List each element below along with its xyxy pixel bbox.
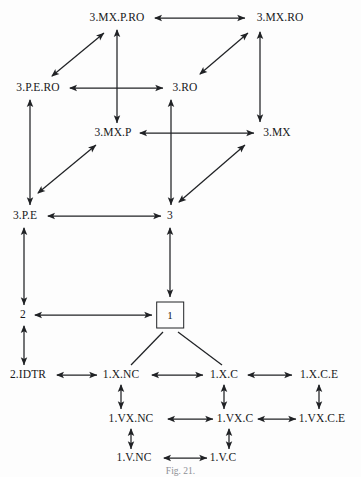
edge-mx-to-mx-ro bbox=[200, 33, 248, 74]
node-v-nc: 1.V.NC bbox=[117, 452, 152, 464]
node-vx-c: 1.VX.C bbox=[217, 413, 253, 425]
node-p-e: 3.P.E bbox=[13, 210, 37, 222]
node-v-c: 1.V.C bbox=[210, 452, 237, 464]
node-mx: 3.MX bbox=[263, 127, 291, 139]
node-idtr: 2.IDTR bbox=[10, 369, 46, 381]
node-one: 1 bbox=[156, 302, 184, 329]
node-two: 2 bbox=[20, 309, 26, 321]
edge-three-to-mx bbox=[179, 145, 245, 202]
node-three: 3 bbox=[167, 210, 173, 222]
node-p-e-ro: 3.P.E.RO bbox=[16, 82, 59, 94]
node-x-c: 1.X.C bbox=[210, 369, 238, 381]
edge-layer bbox=[0, 0, 361, 477]
edge-one-to-x-nc bbox=[131, 332, 163, 365]
edge-p-e-to-mx-p bbox=[38, 145, 96, 193]
node-ro: 3.RO bbox=[172, 82, 197, 94]
node-x-c-e: 1.X.C.E bbox=[300, 369, 338, 381]
edge-one-to-x-c bbox=[178, 332, 222, 365]
node-vx-nc: 1.VX.NC bbox=[109, 413, 154, 425]
node-mx-ro: 3.MX.RO bbox=[257, 12, 304, 24]
node-vx-c-e: 1.VX.C.E bbox=[299, 413, 345, 425]
figure-diagram: 3.MX.P.RO3.MX.RO3.P.E.RO3.RO3.MX.P3.MX3.… bbox=[0, 0, 361, 477]
edge-p-e-ro-to-mx-p-ro bbox=[52, 33, 104, 76]
node-mx-p-ro: 3.MX.P.RO bbox=[90, 12, 145, 24]
node-x-nc: 1.X.NC bbox=[103, 369, 139, 381]
figure-caption: Fig. 21. bbox=[166, 466, 195, 476]
node-mx-p: 3.MX.P bbox=[94, 127, 131, 139]
